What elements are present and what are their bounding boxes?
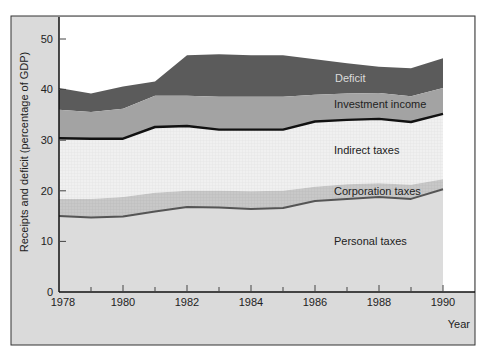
x-tick-1988: 1988 bbox=[367, 296, 391, 308]
y-tick-20: 20 bbox=[41, 185, 53, 197]
y-axis-label: Receipts and deficit (percentage of GDP) bbox=[18, 52, 30, 253]
chart: 0 10 20 30 40 50 1978 1980 1982 1984 198… bbox=[0, 0, 486, 356]
label-corporation-taxes: Corporation taxes bbox=[334, 185, 421, 197]
x-tick-1978: 1978 bbox=[51, 296, 75, 308]
area-bands bbox=[59, 54, 443, 292]
x-tick-1986: 1986 bbox=[303, 296, 327, 308]
label-personal-taxes: Personal taxes bbox=[334, 235, 407, 247]
y-tick-30: 30 bbox=[41, 134, 53, 146]
x-tick-1990: 1990 bbox=[431, 296, 455, 308]
y-tick-10: 10 bbox=[41, 235, 53, 247]
label-indirect-taxes: Indirect taxes bbox=[334, 144, 400, 156]
x-tick-1980: 1980 bbox=[111, 296, 135, 308]
y-tick-50: 50 bbox=[41, 33, 53, 45]
x-axis-label: Year bbox=[448, 318, 471, 330]
label-deficit: Deficit bbox=[335, 72, 366, 84]
label-investment-income: Investment income bbox=[334, 98, 426, 110]
y-tick-40: 40 bbox=[41, 83, 53, 95]
x-tick-1982: 1982 bbox=[175, 296, 199, 308]
x-tick-1984: 1984 bbox=[239, 296, 263, 308]
